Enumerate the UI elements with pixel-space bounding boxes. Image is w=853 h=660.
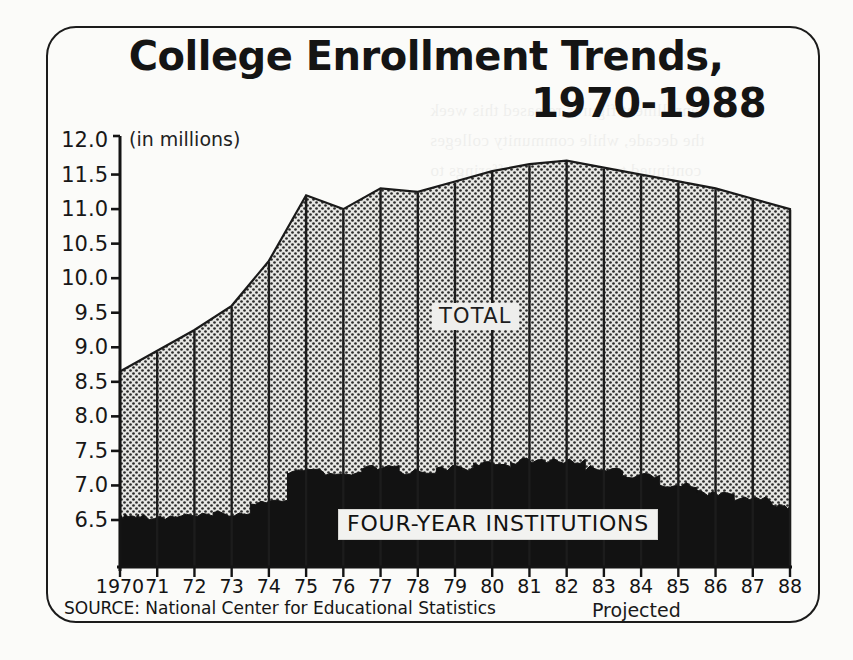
x-tick-label: 1970 xyxy=(96,575,144,597)
x-tick-label: 79 xyxy=(443,575,467,597)
y-tick-label: 6.5 xyxy=(46,508,108,532)
x-tick-label: 78 xyxy=(406,575,430,597)
y-tick-label: 10.5 xyxy=(46,232,108,256)
x-tick-label: 83 xyxy=(592,575,616,597)
y-tick-label: 8.0 xyxy=(46,404,108,428)
series-label-fouryear: FOUR-YEAR INSTITUTIONS xyxy=(338,509,658,540)
x-tick-label: 77 xyxy=(368,575,392,597)
x-tick-label: 73 xyxy=(220,575,244,597)
x-tick-label: 84 xyxy=(629,575,653,597)
chart-svg xyxy=(0,0,853,660)
y-tick-label: 10.0 xyxy=(46,266,108,290)
source-note: SOURCE: National Center for Educational … xyxy=(64,598,496,618)
y-tick-label: 9.0 xyxy=(46,335,108,359)
plot-area: 12.011.511.010.510.09.59.08.58.07.57.06.… xyxy=(0,0,853,660)
x-tick-label: 88 xyxy=(778,575,802,597)
units-label: (in millions) xyxy=(129,128,240,150)
y-tick-label: 9.5 xyxy=(46,301,108,325)
series-label-total: TOTAL xyxy=(432,303,519,330)
x-tick-label: 82 xyxy=(555,575,579,597)
y-tick-label: 11.0 xyxy=(46,197,108,221)
x-tick-label: 81 xyxy=(517,575,541,597)
y-tick-label: 7.0 xyxy=(46,473,108,497)
y-tick-label: 11.5 xyxy=(46,163,108,187)
x-tick-label: 72 xyxy=(182,575,206,597)
y-tick-label: 8.5 xyxy=(46,370,108,394)
x-tick-label: 74 xyxy=(257,575,281,597)
x-tick-label: 76 xyxy=(331,575,355,597)
x-tick-label: 87 xyxy=(741,575,765,597)
x-tick-label: 71 xyxy=(145,575,169,597)
x-tick-label: 80 xyxy=(480,575,504,597)
y-tick-label: 12.0 xyxy=(46,128,108,152)
projected-note: Projected xyxy=(592,599,681,621)
x-tick-label: 85 xyxy=(666,575,690,597)
y-tick-label: 7.5 xyxy=(46,439,108,463)
x-tick-label: 75 xyxy=(294,575,318,597)
x-tick-label: 86 xyxy=(703,575,727,597)
